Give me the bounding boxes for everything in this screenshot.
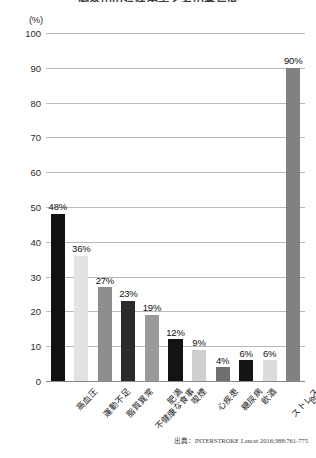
y-axis-tick-label: 50 xyxy=(30,202,41,213)
x-axis-category-label: 高血圧 xyxy=(73,385,100,412)
x-axis-category-label: 心疾患 xyxy=(214,385,241,412)
chart-container: 脳卒中の危険因子とその寄与度 (%) 010203040506070809010… xyxy=(0,0,316,458)
gridline: 0 xyxy=(46,381,305,382)
bar-slot: 36% xyxy=(74,33,88,381)
bar-slot: 4% xyxy=(216,33,230,381)
bar-value-label: 23% xyxy=(119,288,137,299)
bar-slot: 12% xyxy=(168,33,182,381)
bar[interactable] xyxy=(192,350,206,381)
bar-value-label: 19% xyxy=(143,302,161,313)
y-axis-tick-label: 30 xyxy=(30,271,41,282)
y-axis-tick-label: 90 xyxy=(30,62,41,73)
bar-slot: 6% xyxy=(239,33,253,381)
bar-value-label: 6% xyxy=(239,348,252,359)
bar[interactable] xyxy=(286,68,300,381)
x-axis-category-label: 飲酒 xyxy=(258,385,279,406)
bar-value-label: 90% xyxy=(284,55,302,66)
bar[interactable] xyxy=(98,287,112,381)
bar[interactable] xyxy=(145,315,159,381)
bar-series: 48%36%27%23%19%12%9%4%6%6%90% xyxy=(46,33,305,381)
bar[interactable] xyxy=(74,256,88,381)
y-axis-tick-label: 10 xyxy=(30,341,41,352)
y-axis-tick-label: 20 xyxy=(30,306,41,317)
bar-slot: 23% xyxy=(121,33,135,381)
y-axis-tick-label: 80 xyxy=(30,97,41,108)
bar-slot: 9% xyxy=(192,33,206,381)
bar-value-label: 27% xyxy=(96,275,114,286)
bar[interactable] xyxy=(168,339,182,381)
bar-value-label: 9% xyxy=(192,337,205,348)
bar[interactable] xyxy=(51,214,65,381)
bar[interactable] xyxy=(263,360,277,381)
bar-slot: 19% xyxy=(145,33,159,381)
bar[interactable] xyxy=(239,360,253,381)
bar-slot: 27% xyxy=(98,33,112,381)
chart-title: 脳卒中の危険因子とその寄与度 xyxy=(0,0,316,2)
bar[interactable] xyxy=(216,367,230,381)
bar-value-label: 36% xyxy=(72,243,90,254)
bar-value-label: 6% xyxy=(263,348,276,359)
bar-slot: 90% xyxy=(286,33,300,381)
y-axis-tick-label: 60 xyxy=(30,167,41,178)
y-axis-tick-label: 40 xyxy=(30,236,41,247)
plot-area: 0102030405060708090100 48%36%27%23%19%12… xyxy=(46,33,305,381)
y-axis-unit-label: (%) xyxy=(29,14,43,25)
bar-value-label: 48% xyxy=(49,201,67,212)
bar[interactable] xyxy=(121,301,135,381)
source-citation: 出典：INTERSTROKE Lancet 2016;388:761-775 xyxy=(174,435,308,445)
y-axis-tick-label: 70 xyxy=(30,132,41,143)
bar-value-label: 4% xyxy=(216,355,229,366)
bar-slot: 48% xyxy=(51,33,65,381)
bar-value-label: 12% xyxy=(166,327,184,338)
y-axis-tick-label: 100 xyxy=(25,28,41,39)
y-axis-tick-label: 0 xyxy=(36,376,41,387)
bar-slot: 6% xyxy=(263,33,277,381)
